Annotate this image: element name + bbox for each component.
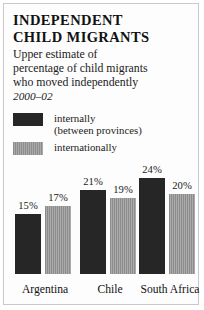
legend-item-internally: internally (between provinces): [13, 112, 189, 136]
chart-x-axis-labels: Argentina Chile South Africa: [13, 278, 194, 298]
gray-striped-swatch-icon: [13, 142, 43, 155]
card-content: INDEPENDENT CHILD MIGRANTS Upper estimat…: [4, 4, 198, 304]
bar-chile-internationally: [110, 198, 136, 274]
x-label-chile: Chile: [78, 283, 142, 296]
period-label: 2000–02: [13, 90, 189, 104]
bar-argentina-internationally: [45, 206, 71, 274]
bar-value-south-africa-internally: 24%: [136, 165, 168, 176]
bar-group-south-africa: 24% 20%: [139, 170, 199, 274]
bar-chart: 15% 17% 21% 19%: [13, 170, 194, 298]
title-line-2: CHILD MIGRANTS: [13, 29, 189, 46]
subtitle-line-1: Upper estimate of: [13, 48, 189, 62]
bar-south-africa-internationally: [169, 194, 195, 274]
subtitle-line-3: who moved independently: [13, 76, 189, 90]
legend-item-internally-label: internally (between provinces): [54, 112, 142, 136]
bar-south-africa-internally: [139, 178, 165, 274]
subtitle-line-2: percentage of child migrants: [13, 62, 189, 76]
chart-plot-area: 15% 17% 21% 19%: [13, 170, 194, 274]
bar-value-chile-internally: 21%: [77, 177, 109, 188]
legend-internally-line-2: (between provinces): [54, 124, 142, 136]
title-line-1: INDEPENDENT: [13, 12, 189, 29]
chart-legend: internally (between provinces) internati…: [13, 112, 189, 155]
bar-value-argentina-internally: 15%: [12, 201, 44, 212]
subtitle: Upper estimate of percentage of child mi…: [13, 48, 189, 89]
bar-group-chile: 21% 19%: [80, 170, 140, 274]
bar-chile-internally: [80, 190, 106, 274]
legend-internally-line-1: internally: [54, 112, 95, 124]
x-label-argentina: Argentina: [13, 283, 77, 296]
dark-solid-swatch-icon: [13, 113, 43, 126]
bar-value-chile-internationally: 19%: [107, 185, 139, 196]
legend-item-internationally-label: internationally: [54, 141, 117, 153]
x-label-south-africa: South Africa: [137, 283, 203, 296]
legend-item-internationally: internationally: [13, 141, 189, 155]
bar-value-south-africa-internationally: 20%: [166, 181, 198, 192]
legend-internationally-line-1: internationally: [54, 141, 117, 153]
bar-argentina-internally: [15, 214, 41, 274]
bar-group-argentina: 15% 17%: [15, 170, 75, 274]
bar-value-argentina-internationally: 17%: [42, 193, 74, 204]
page-title: INDEPENDENT CHILD MIGRANTS: [13, 12, 189, 45]
infographic-card: INDEPENDENT CHILD MIGRANTS Upper estimat…: [3, 3, 199, 305]
